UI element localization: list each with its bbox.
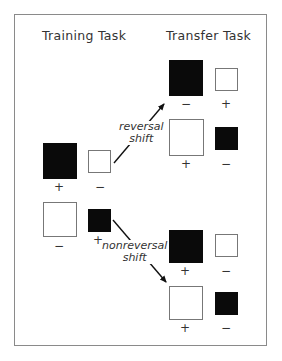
nonreversal-label-line2: shift bbox=[102, 252, 167, 264]
shift-arrows bbox=[0, 0, 282, 361]
reversal-label-line2: shift bbox=[119, 133, 164, 145]
reversal-label: reversal shift bbox=[118, 121, 165, 145]
nonreversal-label: nonreversal shift bbox=[101, 240, 168, 264]
